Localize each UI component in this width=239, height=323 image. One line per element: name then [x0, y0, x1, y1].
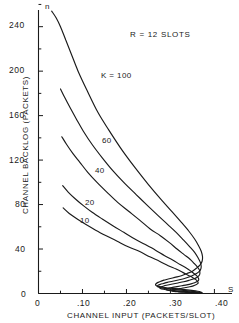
y-tick-label-0: 0 — [21, 289, 26, 299]
y-tick-label-40: 40 — [15, 244, 25, 254]
y-axis-title-wrapper: CHANNEL BACKLOG (PACKETS) — [14, 70, 32, 220]
y-axis-title: CHANNEL BACKLOG (PACKETS) — [21, 76, 30, 214]
curve-series-20 — [63, 186, 201, 294]
curve-label-40: 40 — [95, 166, 105, 175]
figure-container: n S R = 12 SLOTS 0 40 80 120 160 200 240… — [0, 0, 239, 323]
chart-plot-area — [0, 0, 239, 323]
x-tick-label-0: 0 — [35, 298, 40, 308]
data-curves — [52, 11, 203, 293]
chart-annotation: R = 12 SLOTS — [130, 30, 191, 39]
curve-label-k100: K = 100 — [101, 71, 132, 80]
x-tick-label-20: .20 — [123, 298, 136, 308]
x-tick-label-40: .40 — [215, 298, 228, 308]
x-tick-label-30: .30 — [169, 298, 182, 308]
y-tick-label-240: 240 — [9, 20, 25, 30]
curve-series-60 — [60, 89, 201, 293]
x-tick-label-10: .10 — [77, 298, 90, 308]
curve-label-10: 10 — [80, 216, 90, 225]
curve-label-60: 60 — [102, 136, 112, 145]
y-axis-symbol: n — [45, 2, 50, 11]
axis-ticks — [39, 4, 215, 293]
curve-series-k100 — [52, 11, 203, 293]
curve-series-40 — [62, 137, 201, 294]
x-axis-symbol: S — [228, 285, 234, 294]
curve-label-20: 20 — [85, 198, 95, 207]
axes-lines — [39, 10, 233, 294]
x-axis-title: CHANNEL INPUT (PACKETS/SLOT) — [67, 311, 215, 320]
